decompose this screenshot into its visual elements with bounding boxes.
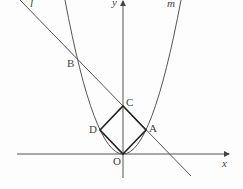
x-axis-label: x	[222, 158, 227, 169]
diagram-graphics	[0, 0, 243, 189]
coordinate-diagram: y x O m l B C A D	[0, 0, 243, 189]
point-a-label: A	[149, 123, 157, 134]
origin-label: O	[113, 156, 121, 167]
y-axis-label: y	[112, 0, 117, 8]
point-d-label: D	[89, 124, 97, 135]
point-c-label: C	[126, 97, 133, 108]
point-b-label: B	[67, 58, 74, 69]
parabola-label: m	[167, 0, 175, 9]
line-l	[20, 0, 191, 176]
line-label: l	[30, 0, 33, 9]
